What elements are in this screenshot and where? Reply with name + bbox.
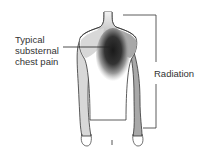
pain-label: Typical substernal chest pain <box>15 34 75 67</box>
radiation-label: Radiation <box>154 68 194 79</box>
chest-pain-zone <box>96 28 130 84</box>
